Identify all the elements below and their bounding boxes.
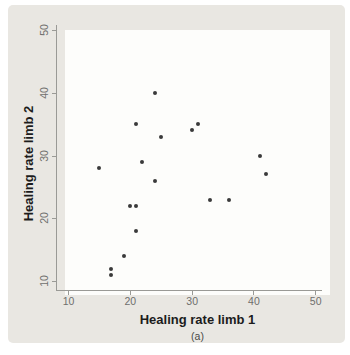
- data-point: [153, 179, 157, 183]
- y-tick-label: 30: [38, 141, 50, 171]
- y-tick-mark: [52, 156, 56, 157]
- x-tick-label: 30: [177, 295, 207, 307]
- y-tick-mark: [52, 281, 56, 282]
- x-tick-label: 40: [239, 295, 269, 307]
- data-point: [128, 204, 132, 208]
- data-point: [134, 229, 138, 233]
- data-point: [134, 204, 138, 208]
- data-point: [208, 198, 212, 202]
- y-axis-title: Healing rate limb 2: [21, 57, 36, 271]
- y-tick-mark: [52, 218, 56, 219]
- figure-caption: (a): [65, 330, 330, 342]
- x-axis-title: Healing rate limb 1: [65, 312, 330, 327]
- figure-page: Healing rate limb 2 Healing rate limb 1 …: [0, 0, 350, 355]
- y-tick-label: 50: [38, 15, 50, 45]
- x-tick-label: 50: [301, 295, 331, 307]
- y-tick-mark: [52, 93, 56, 94]
- y-tick-label: 10: [38, 266, 50, 296]
- y-axis-line: [56, 25, 57, 291]
- data-point: [153, 91, 157, 95]
- data-point: [122, 254, 126, 258]
- y-tick-label: 40: [38, 78, 50, 108]
- data-point: [258, 154, 262, 158]
- chart-panel: Healing rate limb 2 Healing rate limb 1 …: [8, 5, 345, 343]
- x-axis-line: [56, 290, 322, 291]
- data-point: [227, 198, 231, 202]
- x-tick-label: 20: [115, 295, 145, 307]
- plot-area: [65, 30, 330, 295]
- x-tick-label: 10: [54, 295, 84, 307]
- y-tick-mark: [52, 30, 56, 31]
- data-point: [159, 135, 163, 139]
- y-tick-label: 20: [38, 203, 50, 233]
